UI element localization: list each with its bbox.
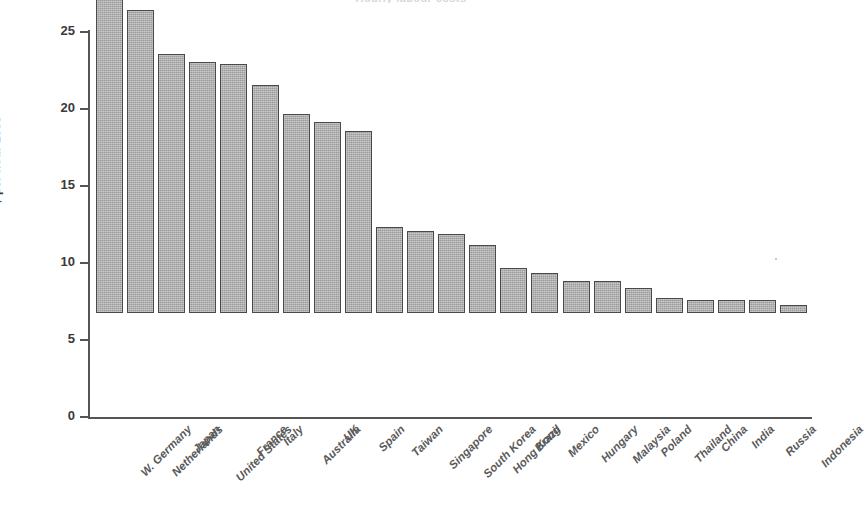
bar xyxy=(220,64,247,313)
y-axis-tick-mark xyxy=(80,416,88,418)
x-axis-category-label: Japan xyxy=(190,423,222,455)
bar xyxy=(314,122,341,313)
scan-artifact-speck xyxy=(775,258,777,260)
x-axis-category-label: Taiwan xyxy=(410,423,446,459)
bar xyxy=(531,273,558,313)
bar xyxy=(252,85,279,313)
bar-series xyxy=(96,0,812,419)
bar xyxy=(96,0,123,313)
bar xyxy=(469,245,496,313)
bar xyxy=(718,300,745,313)
x-axis-category-label: Brazil xyxy=(532,423,563,454)
x-axis-category-label: Russia xyxy=(783,423,818,458)
y-axis-tick-mark xyxy=(80,108,88,110)
y-axis-tick-label: 0 xyxy=(68,408,75,423)
y-axis-tick-label: 20 xyxy=(61,100,75,115)
bar xyxy=(780,305,807,313)
x-axis-category-label: Indonesia xyxy=(818,423,864,469)
x-axis-category-label: Mexico xyxy=(565,423,601,459)
y-axis-tick-label: 25 xyxy=(61,23,75,38)
bar xyxy=(127,10,154,313)
y-axis-tick-mark xyxy=(80,339,88,341)
bar xyxy=(407,231,434,313)
y-axis-tick-label: 10 xyxy=(61,254,75,269)
y-axis-tick-mark xyxy=(80,185,88,187)
bar xyxy=(656,298,683,313)
bar xyxy=(189,62,216,313)
bar xyxy=(158,54,185,313)
y-axis-tick-mark xyxy=(80,262,88,264)
bar xyxy=(563,281,590,313)
y-axis-label: $ per hour 1993 xyxy=(0,116,3,205)
x-axis-category-labels: W. GermanyNetherlandsJapanUnited StatesF… xyxy=(96,423,812,525)
bar xyxy=(500,268,527,313)
bar xyxy=(625,288,652,313)
y-axis-tick-label: 5 xyxy=(68,331,75,346)
y-axis-line xyxy=(88,30,90,419)
bar xyxy=(345,131,372,313)
bar xyxy=(687,300,714,313)
y-axis-tick-mark xyxy=(80,31,88,33)
bar xyxy=(749,300,776,313)
y-axis-tick-label: 15 xyxy=(61,177,75,192)
bar xyxy=(376,227,403,313)
x-axis-category-label: Spain xyxy=(376,423,407,454)
bar xyxy=(283,114,310,313)
x-axis-category-label: India xyxy=(748,423,775,450)
bar xyxy=(594,281,621,313)
bar xyxy=(438,234,465,313)
